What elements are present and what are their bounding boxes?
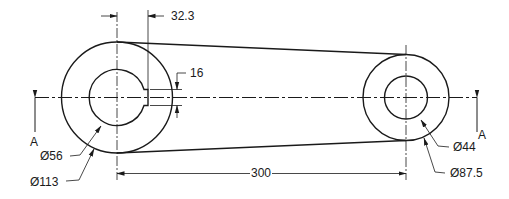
section-label-left: A [30, 135, 38, 149]
dimension-key-width [150, 73, 186, 118]
dim-right-boss-label: Ø87.5 [450, 166, 483, 180]
tangent-top [117, 42, 406, 55]
dim-left-boss-label: Ø113 [30, 175, 58, 189]
leader-right-boss [424, 138, 445, 173]
tangent-bottom [117, 141, 406, 154]
section-line-a-a [35, 98, 477, 133]
dim-key-offset-label: 32.3 [171, 9, 194, 23]
dimension-key-offset [101, 10, 164, 90]
section-label-right: A [478, 128, 486, 142]
dim-center-distance-label: 300 [251, 166, 271, 180]
dim-left-bore-label: Ø56 [40, 149, 63, 163]
dim-right-bore-label: Ø44 [453, 140, 476, 154]
leader-left-bore [70, 126, 101, 156]
leader-left-boss [66, 149, 94, 181]
dim-key-width-label: 16 [190, 66, 203, 80]
